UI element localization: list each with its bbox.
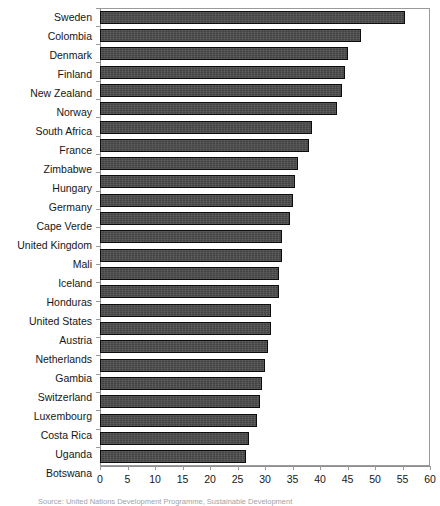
x-axis-tick-label: 0 xyxy=(97,472,103,486)
bar-row xyxy=(100,209,430,227)
bar-row xyxy=(100,191,430,209)
x-axis-tick-label: 60 xyxy=(424,472,436,486)
bar xyxy=(100,194,293,207)
x-axis-tick xyxy=(265,466,266,470)
bar xyxy=(100,84,342,97)
y-axis-label: Switzerland xyxy=(0,388,96,407)
bar-row xyxy=(100,63,430,81)
x-axis-tick xyxy=(100,466,101,470)
x-axis-tick xyxy=(430,466,431,470)
x-axis-tick-label: 5 xyxy=(125,472,131,486)
x-axis-tick xyxy=(128,466,129,470)
bar xyxy=(100,395,260,408)
bar xyxy=(100,249,282,262)
x-axis-tick-labels: 051015202530354045505560 xyxy=(100,472,430,486)
bar-row xyxy=(100,136,430,154)
bar-row xyxy=(100,393,430,411)
bar-row xyxy=(100,118,430,136)
bar xyxy=(100,212,290,225)
bar-row xyxy=(100,246,430,264)
y-axis-label: Gambia xyxy=(0,369,96,388)
x-axis-tick xyxy=(293,466,294,470)
bar-row xyxy=(100,356,430,374)
bar-row xyxy=(100,448,430,466)
bar xyxy=(100,377,262,390)
bar xyxy=(100,414,257,427)
bar-row xyxy=(100,264,430,282)
y-axis-label: Colombia xyxy=(0,27,96,46)
x-axis-tick-label: 55 xyxy=(397,472,409,486)
bar-row xyxy=(100,374,430,392)
bar-row xyxy=(100,26,430,44)
y-axis-label: Norway xyxy=(0,103,96,122)
bar-series xyxy=(100,8,430,466)
x-axis-tick-label: 10 xyxy=(149,472,161,486)
bar xyxy=(100,450,246,463)
x-axis-tick xyxy=(155,466,156,470)
bar-row xyxy=(100,173,430,191)
x-axis-tick-label: 20 xyxy=(204,472,216,486)
bar xyxy=(100,267,279,280)
x-axis-tick xyxy=(183,466,184,470)
bar xyxy=(100,121,312,134)
bar xyxy=(100,230,282,243)
y-axis-label: Mali xyxy=(0,255,96,274)
x-axis-tick-label: 50 xyxy=(369,472,381,486)
x-axis-tick xyxy=(238,466,239,470)
x-axis-tick-label: 40 xyxy=(314,472,326,486)
y-axis-label: United States xyxy=(0,312,96,331)
y-axis-category-labels: SwedenColombiaDenmarkFinlandNew ZealandN… xyxy=(0,8,96,466)
bar xyxy=(100,175,295,188)
y-axis-label: Uganda xyxy=(0,445,96,464)
x-axis-tick-label: 25 xyxy=(232,472,244,486)
bar-row xyxy=(100,429,430,447)
bar xyxy=(100,359,265,372)
y-axis-label: United Kingdom xyxy=(0,236,96,255)
y-axis-label: South Africa xyxy=(0,122,96,141)
x-axis-tick xyxy=(403,466,404,470)
y-axis-label: Austria xyxy=(0,331,96,350)
y-axis-label: Cape Verde xyxy=(0,217,96,236)
bar xyxy=(100,139,309,152)
x-axis-tick-label: 35 xyxy=(287,472,299,486)
x-axis-tick xyxy=(320,466,321,470)
y-axis-label: Luxembourg xyxy=(0,407,96,426)
bar-row xyxy=(100,301,430,319)
bar xyxy=(100,66,345,79)
bar xyxy=(100,432,249,445)
bar xyxy=(100,340,268,353)
bar xyxy=(100,47,348,60)
x-axis-tick-label: 30 xyxy=(259,472,271,486)
bar xyxy=(100,285,279,298)
y-axis-label: New Zealand xyxy=(0,84,96,103)
bar xyxy=(100,157,298,170)
x-axis-tick xyxy=(375,466,376,470)
source-caption: Source: United Nations Development Progr… xyxy=(38,497,440,506)
bar-row xyxy=(100,155,430,173)
y-axis-label: Costa Rica xyxy=(0,426,96,445)
y-axis-label: Germany xyxy=(0,198,96,217)
bar-row xyxy=(100,81,430,99)
bar-row xyxy=(100,45,430,63)
x-axis-tick-label: 15 xyxy=(177,472,189,486)
bar-row xyxy=(100,100,430,118)
bar-row xyxy=(100,228,430,246)
y-axis-label: Sweden xyxy=(0,8,96,27)
bar xyxy=(100,304,271,317)
y-axis-label: Iceland xyxy=(0,274,96,293)
y-axis-label: France xyxy=(0,141,96,160)
y-axis-label: Netherlands xyxy=(0,350,96,369)
bar xyxy=(100,29,361,42)
bar xyxy=(100,11,405,24)
y-axis-label: Botswana xyxy=(0,464,96,483)
bar-row xyxy=(100,8,430,26)
x-axis-tick-label: 45 xyxy=(342,472,354,486)
bar-row xyxy=(100,411,430,429)
y-axis-label: Finland xyxy=(0,65,96,84)
y-axis-label: Hungary xyxy=(0,179,96,198)
y-axis-label: Honduras xyxy=(0,293,96,312)
bar-row xyxy=(100,319,430,337)
y-axis-label: Denmark xyxy=(0,46,96,65)
x-axis-tick xyxy=(348,466,349,470)
